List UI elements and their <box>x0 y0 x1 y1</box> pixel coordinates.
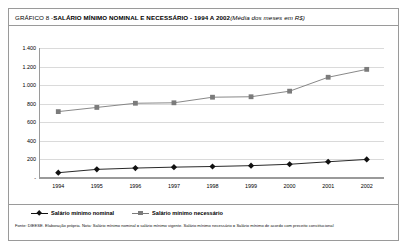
series-line <box>58 69 366 111</box>
diamond-marker-icon <box>31 213 48 214</box>
data-point-square <box>94 105 99 110</box>
series-lines <box>9 26 400 204</box>
chart-legend: Salário mínimo nominal Salário mínimo ne… <box>9 204 398 221</box>
data-point-diamond <box>132 165 138 171</box>
chart-title-note: (Média dos meses em R$) <box>230 14 305 21</box>
legend-label-necessario: Salário mínimo necessário <box>152 210 223 216</box>
data-point-square <box>249 94 254 99</box>
legend-item-nominal[interactable]: Salário mínimo nominal <box>31 210 114 216</box>
legend-label-nominal: Salário mínimo nominal <box>51 210 114 216</box>
chart-footnote: Fonte: DIEESE. Elaboração própria. Nota:… <box>9 221 398 228</box>
data-point-diamond <box>171 164 177 170</box>
data-point-diamond <box>55 170 61 176</box>
chart-title-prefix: GRÁFICO 8 - <box>15 14 53 21</box>
data-point-square <box>210 95 215 100</box>
data-point-diamond <box>325 159 331 165</box>
chart-figure: GRÁFICO 8 - SALÁRIO MÍNIMO NOMINAL E NEC… <box>8 8 399 241</box>
data-point-square <box>364 67 369 72</box>
data-point-square <box>133 101 138 106</box>
chart-title: GRÁFICO 8 - SALÁRIO MÍNIMO NOMINAL E NEC… <box>9 9 398 26</box>
legend-item-necessario[interactable]: Salário mínimo necessário <box>132 210 223 216</box>
plot-area: -2004006008001.0001.2001.400199419951996… <box>9 26 398 204</box>
data-point-square <box>56 109 61 114</box>
data-point-diamond <box>209 163 215 169</box>
data-point-square <box>287 89 292 94</box>
data-point-square <box>172 100 177 105</box>
data-point-diamond <box>94 166 100 172</box>
data-point-diamond <box>248 163 254 169</box>
data-point-diamond <box>364 156 370 162</box>
data-point-square <box>326 75 331 80</box>
chart-title-main: SALÁRIO MÍNIMO NOMINAL E NECESSÁRIO - 19… <box>53 14 230 21</box>
data-point-diamond <box>287 161 293 167</box>
square-marker-icon <box>132 213 149 214</box>
